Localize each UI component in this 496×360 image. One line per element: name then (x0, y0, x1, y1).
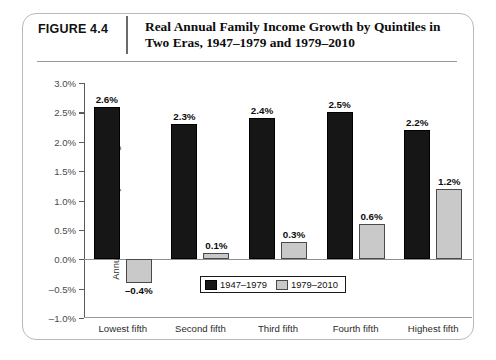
chart-legend: 1947–1979 1979–2010 (200, 276, 346, 293)
y-tick-label: 2.5% (54, 107, 76, 118)
bar-value-label: 0.1% (190, 240, 242, 251)
legend-label-1979-2010: 1979–2010 (291, 279, 338, 290)
y-tick-label: 3.0% (54, 78, 76, 89)
bar-value-label: 0.3% (268, 229, 320, 240)
bar (203, 253, 229, 259)
figure-number: FIGURE 4.4 (38, 22, 108, 36)
y-tick-mark (79, 83, 84, 84)
legend-item-1947-1979: 1947–1979 (205, 279, 267, 290)
y-tick-mark (79, 201, 84, 202)
x-category-label: Lowest fifth (99, 323, 148, 334)
header-divider (126, 16, 128, 54)
y-axis-line (84, 83, 85, 318)
bar-value-label: 2.2% (391, 117, 443, 128)
y-tick-mark (79, 289, 84, 290)
y-tick-mark (79, 230, 84, 231)
y-tick-mark (79, 259, 84, 260)
legend-label-1947-1979: 1947–1979 (220, 279, 267, 290)
y-tick-label: –0.5% (49, 283, 76, 294)
bar-value-label: 2.6% (81, 94, 133, 105)
bar (281, 242, 307, 260)
bar (436, 189, 462, 260)
bar (171, 124, 197, 259)
bar (126, 259, 152, 283)
x-category-label: Fourth fifth (333, 323, 379, 334)
legend-swatch-icon-1947-1979 (205, 280, 217, 290)
x-category-label: Third fifth (258, 323, 298, 334)
x-category-label: Highest fifth (408, 323, 459, 334)
bar (359, 224, 385, 259)
legend-swatch-icon-1979-2010 (276, 280, 288, 290)
y-tick-label: 0.0% (54, 254, 76, 265)
y-tick-mark (79, 171, 84, 172)
bar-value-label: 2.3% (158, 111, 210, 122)
y-tick-label: 1.5% (54, 166, 76, 177)
bar-value-label: –0.4% (113, 285, 165, 296)
figure-header: FIGURE 4.4 Real Annual Family Income Gro… (23, 14, 473, 62)
x-category-label: Second fifth (175, 323, 226, 334)
y-tick-mark (79, 142, 84, 143)
figure-title: Real Annual Family Income Growth by Quin… (145, 19, 457, 50)
legend-item-1979-2010: 1979–2010 (276, 279, 338, 290)
y-tick-label: 2.0% (54, 136, 76, 147)
x-axis-line (84, 317, 472, 318)
y-tick-label: 1.0% (54, 195, 76, 206)
bar (327, 112, 353, 259)
y-tick-mark (79, 318, 84, 319)
bar (404, 130, 430, 259)
chart-area: Annualized real family income growth 3.0… (22, 62, 474, 340)
bar-value-label: 2.4% (236, 105, 288, 116)
bar-value-label: 2.5% (314, 99, 366, 110)
y-tick-label: 0.5% (54, 224, 76, 235)
y-tick-mark (79, 112, 84, 113)
bar-value-label: 0.6% (346, 211, 398, 222)
y-tick-label: –1.0% (49, 313, 76, 324)
bar (94, 107, 120, 260)
bar-value-label: 1.2% (423, 176, 475, 187)
